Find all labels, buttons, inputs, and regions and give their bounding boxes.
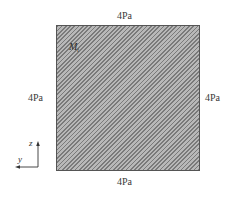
y-axis-label: y xyxy=(18,154,22,164)
left-edge-stress-label: 4Pa xyxy=(28,92,43,104)
top-edge-stress-label: 4Pa xyxy=(117,10,132,22)
right-edge-stress-label: 4Pa xyxy=(205,92,220,104)
hatched-plate-element: Mt xyxy=(56,25,200,171)
coordinate-axes: z y xyxy=(14,140,46,172)
moment-subscript: t xyxy=(77,47,79,53)
moment-label: Mt xyxy=(69,41,79,53)
z-axis-label: z xyxy=(29,138,33,148)
bottom-edge-stress-label: 4Pa xyxy=(117,176,132,188)
